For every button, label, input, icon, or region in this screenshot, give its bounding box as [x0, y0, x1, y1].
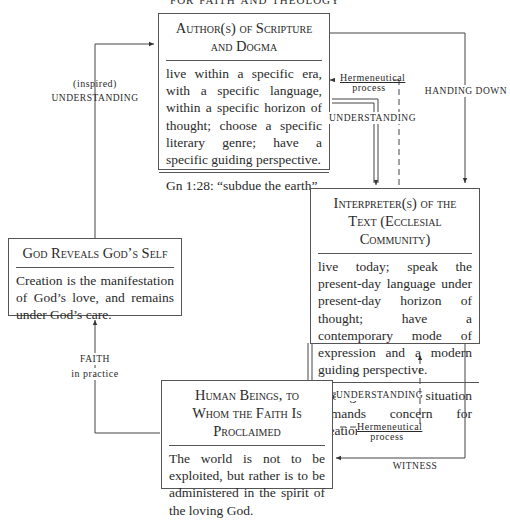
label-understanding-bottom: understanding: [336, 389, 416, 401]
interpreter-box: Interpreter(s) of the Text (Ecclesial Co…: [310, 188, 480, 344]
label-witness: witness: [390, 460, 440, 472]
interpreter-body: live today; speak the present-day langua…: [311, 254, 479, 382]
label-hermeneutical-top: Hermeneutical process: [340, 73, 398, 93]
god-body: Creation is the manifestation of God’s l…: [9, 268, 181, 328]
label-handing-down: handing down: [422, 85, 510, 97]
human-heading: Human Beings, to Whom the Faith Is Procl…: [169, 381, 325, 446]
god-heading: God Reveals God’s Self: [16, 239, 174, 268]
label-understanding-left: understanding: [50, 92, 140, 104]
interpreter-heading: Interpreter(s) of the Text (Ecclesial Co…: [318, 189, 472, 254]
author-body: live within a specific era, with a speci…: [159, 61, 329, 172]
label-faith: faith: [60, 353, 130, 365]
human-body: The world is not to be exploited, but ra…: [162, 446, 332, 522]
author-box: Author(s) of Scripture and Dogma live wi…: [158, 13, 330, 170]
process-bottom-word: process: [370, 431, 404, 442]
label-hermeneutical-bottom: Hermeneutical process: [357, 422, 417, 442]
god-box: God Reveals God’s Self Creation is the m…: [8, 238, 182, 316]
process-top-word: process: [352, 82, 386, 93]
label-in-practice: in practice: [55, 368, 135, 380]
author-footer: Gn 1:28: “subdue the earth”: [159, 172, 329, 198]
author-heading: Author(s) of Scripture and Dogma: [166, 14, 322, 61]
label-inspired: (inspired): [50, 78, 140, 90]
human-box: Human Beings, to Whom the Faith Is Procl…: [161, 380, 333, 489]
label-understanding-top: understanding: [329, 112, 409, 124]
